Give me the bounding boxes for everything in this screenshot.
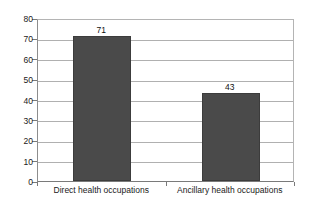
y-axis-tick-label: 70 bbox=[3, 35, 33, 44]
plot-area bbox=[37, 19, 294, 182]
bar[interactable] bbox=[202, 93, 260, 181]
x-axis-tick-mark bbox=[294, 182, 295, 186]
bar-chart: 80706050403020100 Direct health occupati… bbox=[0, 0, 311, 209]
bar-value-label: 43 bbox=[225, 83, 234, 92]
y-axis-tick-label: 50 bbox=[3, 76, 33, 85]
bar-value-label: 71 bbox=[97, 26, 106, 35]
x-axis-tick-mark bbox=[37, 182, 38, 186]
y-axis-tick-label: 20 bbox=[3, 137, 33, 146]
y-axis-tick-label: 80 bbox=[3, 15, 33, 24]
y-axis-tick-label: 0 bbox=[3, 178, 33, 187]
x-axis: Direct health occupationsAncillary healt… bbox=[37, 185, 294, 201]
bar[interactable] bbox=[73, 36, 131, 181]
x-axis-tick-label: Direct health occupations bbox=[54, 185, 149, 195]
y-axis-tick-label: 30 bbox=[3, 117, 33, 126]
y-axis-tick-label: 60 bbox=[3, 56, 33, 65]
x-axis-tick-label: Ancillary health occupations bbox=[177, 185, 282, 195]
y-axis-tick-label: 10 bbox=[3, 157, 33, 166]
x-axis-tick-mark bbox=[166, 182, 167, 186]
y-axis-tick-label: 40 bbox=[3, 96, 33, 105]
y-axis: 80706050403020100 bbox=[0, 19, 33, 182]
